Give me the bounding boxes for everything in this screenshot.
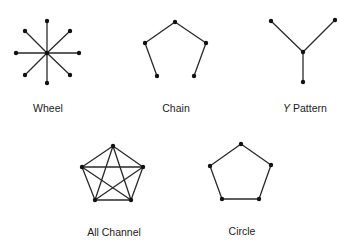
node xyxy=(68,73,72,77)
node xyxy=(77,51,81,55)
node xyxy=(192,74,196,78)
node xyxy=(45,51,49,55)
node xyxy=(111,144,115,148)
node xyxy=(45,81,49,85)
node xyxy=(129,198,133,202)
node xyxy=(269,19,273,23)
node xyxy=(333,18,337,22)
node xyxy=(23,73,27,77)
node xyxy=(155,74,159,78)
node xyxy=(14,51,18,55)
node xyxy=(239,142,243,146)
background xyxy=(0,0,351,248)
node xyxy=(301,50,305,54)
circle-label: Circle xyxy=(229,225,256,237)
y-pattern-label: Y Pattern xyxy=(283,102,327,114)
y-pattern-label-rest: Pattern xyxy=(290,102,327,114)
chain-label: Chain xyxy=(162,102,190,114)
node xyxy=(301,80,305,84)
node xyxy=(143,41,147,45)
node xyxy=(45,19,49,23)
node xyxy=(269,163,273,167)
node xyxy=(220,197,224,201)
node xyxy=(141,165,145,169)
node xyxy=(93,198,97,202)
node xyxy=(204,41,208,45)
node xyxy=(23,29,27,33)
node xyxy=(173,20,177,24)
node xyxy=(80,165,84,169)
communication-networks-diagram: Wheel Chain Y Pattern All Channel Circle xyxy=(0,0,351,248)
node xyxy=(208,164,212,168)
node xyxy=(257,197,261,201)
wheel-label: Wheel xyxy=(33,102,63,114)
node xyxy=(68,29,72,33)
all-channel-label: All Channel xyxy=(87,226,141,238)
